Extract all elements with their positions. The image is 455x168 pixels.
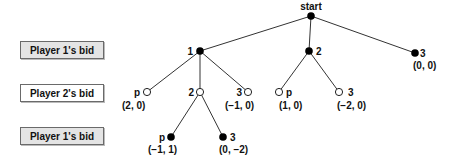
node-1: 1 <box>187 46 203 57</box>
svg-text:3: 3 <box>236 87 242 98</box>
node-1-2-3: 3 (0, −2) <box>219 132 248 155</box>
node-2-p: p (1, 0) <box>275 87 302 111</box>
svg-text:1: 1 <box>187 46 193 57</box>
svg-text:p: p <box>134 87 140 98</box>
svg-text:2: 2 <box>188 87 194 98</box>
node-1-2-p: p (−1, 1) <box>148 132 177 155</box>
svg-text:2: 2 <box>316 46 322 57</box>
payoff: (−1, 1) <box>148 144 177 155</box>
payoff: (2, 0) <box>122 100 145 111</box>
node-start-label: start <box>300 1 322 12</box>
node-3: 3 (0, 0) <box>411 48 436 71</box>
payoff: (−1, 0) <box>225 100 254 111</box>
tree-edges <box>147 16 415 137</box>
node-1-3: 3 (−1, 0) <box>225 87 254 111</box>
svg-text:3: 3 <box>420 48 426 59</box>
game-tree: start 1 2 3 (0, 0) p (2, 0) 2 3 (−1, 0) … <box>0 0 455 168</box>
payoff: (−2, 0) <box>337 100 366 111</box>
node-1-p: p (2, 0) <box>122 87 151 111</box>
payoff: (1, 0) <box>279 100 302 111</box>
node-1-2: 2 <box>188 87 203 98</box>
svg-text:3: 3 <box>348 87 354 98</box>
node-2-3: 3 (−2, 0) <box>335 87 366 111</box>
svg-text:p: p <box>159 132 165 143</box>
svg-text:p: p <box>286 87 292 98</box>
node-2: 2 <box>305 46 322 57</box>
svg-text:3: 3 <box>230 132 236 143</box>
node-start: start <box>300 1 322 20</box>
payoff: (0, 0) <box>413 60 436 71</box>
payoff: (0, −2) <box>219 144 248 155</box>
